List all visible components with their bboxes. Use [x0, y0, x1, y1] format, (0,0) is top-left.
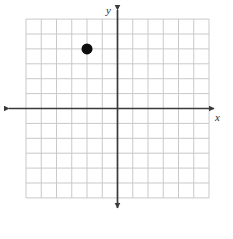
coordinate-plane-svg: x y: [0, 0, 233, 239]
x-axis-label: x: [214, 111, 220, 123]
plotted-point: [82, 43, 93, 54]
data-point-group: [82, 43, 93, 54]
coordinate-plane-figure: x y: [0, 0, 233, 239]
figure-background: [0, 0, 233, 239]
y-axis-label: y: [105, 4, 111, 16]
